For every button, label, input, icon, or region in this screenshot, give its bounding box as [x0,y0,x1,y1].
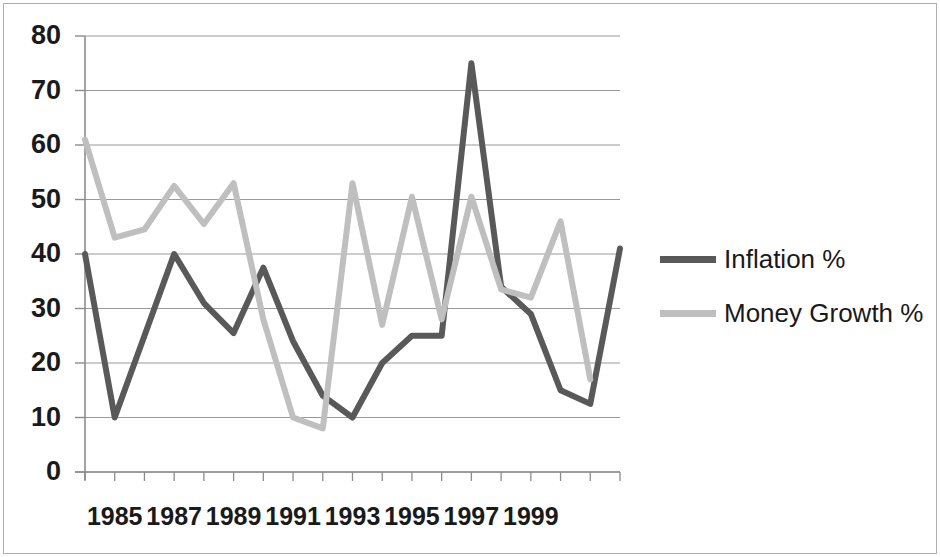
legend-item-inflation[interactable]: Inflation % [660,232,923,286]
x-tick-label: 1999 [491,504,571,529]
y-tick-label: 10 [5,404,61,431]
y-tick-label: 70 [5,77,61,104]
legend-item-money-growth[interactable]: Money Growth % [660,286,923,340]
y-tick-label: 40 [5,240,61,267]
gridlines [85,36,620,472]
data-series-layer [85,63,620,428]
legend-swatch-money-growth [660,310,716,317]
x-tick-marks [85,472,620,481]
legend-label-money-growth: Money Growth % [724,300,923,326]
legend-swatch-inflation [660,256,716,263]
y-tick-label: 60 [5,131,61,158]
y-tick-label: 30 [5,295,61,322]
y-tick-label: 80 [5,22,61,49]
line-chart: 80706050403020100 1985198719891991199319… [0,0,940,557]
series-line-inflation [85,63,620,417]
y-tick-label: 0 [5,458,61,485]
y-tick-label: 50 [5,186,61,213]
y-tick-label: 20 [5,349,61,376]
legend-label-inflation: Inflation % [724,246,845,272]
chart-legend: Inflation % Money Growth % [660,232,923,340]
